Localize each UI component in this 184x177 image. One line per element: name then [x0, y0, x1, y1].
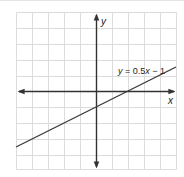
x-axis-label: x	[167, 95, 174, 106]
equation-label: y = 0.5x − 1	[117, 66, 165, 76]
y-axis-label: y	[100, 16, 107, 27]
equation-tail: − 1	[150, 66, 165, 76]
equation-mid: = 0.5	[123, 66, 146, 76]
coordinate-plane: y x y = 0.5x − 1	[0, 0, 184, 177]
